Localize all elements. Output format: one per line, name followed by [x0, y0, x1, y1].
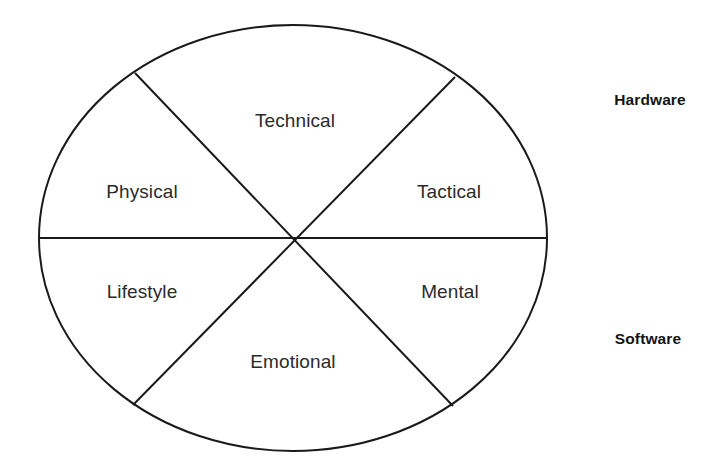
sector-label-mental: Mental: [421, 282, 479, 301]
wheel-graphic: [0, 0, 725, 473]
side-label-software: Software: [615, 331, 681, 347]
wheel-diagram: Technical Tactical Mental Emotional Life…: [0, 0, 725, 473]
sector-label-physical: Physical: [106, 182, 178, 201]
sector-label-lifestyle: Lifestyle: [107, 282, 178, 301]
sector-label-technical: Technical: [255, 111, 335, 130]
side-label-hardware: Hardware: [614, 92, 685, 108]
sector-label-tactical: Tactical: [417, 182, 481, 201]
sector-label-emotional: Emotional: [250, 352, 335, 371]
